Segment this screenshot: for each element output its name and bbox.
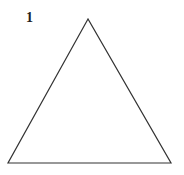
triangle-shape <box>8 19 171 163</box>
triangle-diagram <box>0 0 184 175</box>
